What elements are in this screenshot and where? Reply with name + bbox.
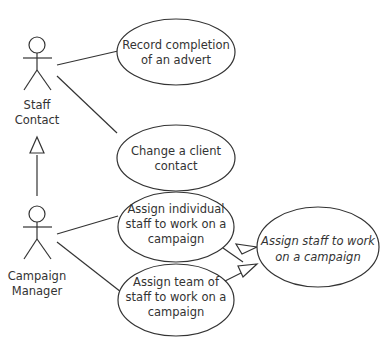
actor-label-line: Staff bbox=[24, 98, 52, 112]
generalization-arrowhead-icon bbox=[30, 137, 44, 153]
svg-text:on a campaign: on a campaign bbox=[275, 250, 360, 264]
svg-text:Assign individual: Assign individual bbox=[127, 202, 224, 216]
svg-text:staff to work on a: staff to work on a bbox=[126, 217, 227, 231]
association-staff-record bbox=[57, 51, 118, 65]
use-case-record-completion: Record completion of an advert bbox=[117, 19, 235, 85]
svg-text:of an advert: of an advert bbox=[141, 53, 212, 67]
use-case-assign-team: Assign team of staff to work on a campai… bbox=[118, 264, 234, 336]
svg-text:contact: contact bbox=[154, 159, 198, 173]
actor-campaign-manager: Campaign Manager bbox=[8, 206, 66, 298]
generalization-manager-to-staff bbox=[30, 137, 44, 196]
use-case-assign-individual: Assign individual staff to work on a cam… bbox=[118, 192, 234, 262]
association-manager-team bbox=[57, 242, 121, 292]
svg-text:Change a client: Change a client bbox=[131, 144, 221, 158]
svg-text:campaign: campaign bbox=[148, 305, 205, 319]
generalization-arrowhead-icon bbox=[236, 244, 257, 254]
association-manager-individual bbox=[57, 216, 118, 234]
actor-head-icon bbox=[29, 37, 45, 53]
svg-text:staff to work on a: staff to work on a bbox=[126, 290, 227, 304]
actor-head-icon bbox=[29, 206, 45, 222]
svg-text:Assign staff to work: Assign staff to work bbox=[260, 234, 376, 248]
actor-label-line: Campaign bbox=[8, 269, 66, 283]
svg-text:Assign team of: Assign team of bbox=[133, 275, 220, 289]
generalization-team-to-assign-staff bbox=[225, 264, 257, 281]
use-case-diagram: Staff Contact Campaign Manager Record co… bbox=[0, 0, 381, 342]
svg-text:campaign: campaign bbox=[148, 232, 205, 246]
association-staff-change bbox=[57, 76, 117, 133]
use-case-change-client-contact: Change a client contact bbox=[117, 125, 235, 191]
generalization-individual-to-assign-staff bbox=[223, 244, 257, 262]
actor-label-line: Manager bbox=[12, 284, 63, 298]
actor-label-line: Contact bbox=[15, 113, 60, 127]
generalization-arrowhead-icon bbox=[238, 264, 257, 277]
svg-text:Record completion: Record completion bbox=[122, 38, 230, 52]
use-case-assign-staff-abstract: Assign staff to work on a campaign bbox=[257, 207, 379, 287]
actor-staff-contact: Staff Contact bbox=[15, 37, 60, 127]
